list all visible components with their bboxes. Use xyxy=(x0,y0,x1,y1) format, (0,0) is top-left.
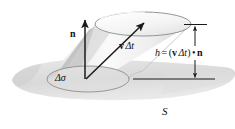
equation-dot-product: • xyxy=(192,47,196,58)
label-normal-vector-text: n xyxy=(70,28,76,39)
equation-v-bold: v xyxy=(172,47,177,58)
equation-h: h xyxy=(155,47,160,58)
equation-n-bold: n xyxy=(197,47,203,58)
equation-close-paren: ) xyxy=(187,47,190,58)
label-surface-S: S xyxy=(162,106,168,117)
equation-equals: = xyxy=(162,47,168,58)
label-area-element: Δσ xyxy=(55,73,66,83)
equation-delta-t: Δt xyxy=(178,47,187,58)
figure-flux-cylinder-diagram: n vΔt Δσ h=(vΔt)•n S xyxy=(0,0,235,129)
label-velocity-displacement: vΔt xyxy=(119,41,134,51)
label-surface-S-text: S xyxy=(162,105,168,117)
label-velocity-bold: v xyxy=(119,40,124,51)
label-delta-t: Δt xyxy=(126,40,135,51)
label-area-element-text: Δσ xyxy=(55,72,66,83)
label-height-equation: h=(vΔt)•n xyxy=(155,48,203,58)
diagram-canvas xyxy=(0,0,235,129)
label-normal-vector: n xyxy=(70,29,76,39)
